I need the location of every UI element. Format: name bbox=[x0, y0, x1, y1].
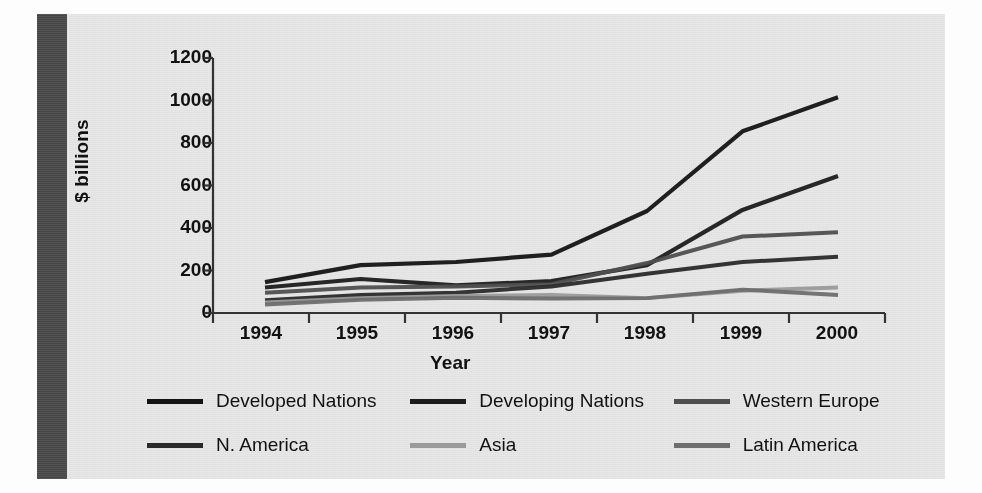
x-tick-label: 1996 bbox=[408, 322, 498, 344]
x-axis-title: Year bbox=[430, 352, 471, 374]
x-tick-label: 1995 bbox=[312, 322, 402, 344]
legend-label: N. America bbox=[216, 434, 309, 456]
legend-swatch-icon bbox=[674, 399, 730, 404]
chart-legend: Developed NationsDeveloping NationsWeste… bbox=[147, 390, 937, 456]
x-tick-label: 1997 bbox=[504, 322, 594, 344]
legend-item[interactable]: Asia bbox=[410, 434, 673, 456]
legend-item[interactable]: Latin America bbox=[674, 434, 937, 456]
legend-label: Latin America bbox=[743, 434, 858, 456]
legend-item[interactable]: Developed Nations bbox=[147, 390, 410, 412]
legend-swatch-icon bbox=[147, 399, 203, 404]
series-line bbox=[265, 97, 838, 282]
legend-label: Developing Nations bbox=[479, 390, 644, 412]
legend-item[interactable]: Western Europe bbox=[674, 390, 937, 412]
x-tick-label: 1999 bbox=[696, 322, 786, 344]
legend-item[interactable]: Developing Nations bbox=[410, 390, 673, 412]
legend-swatch-icon bbox=[674, 443, 730, 448]
legend-label: Asia bbox=[479, 434, 516, 456]
x-tick-label: 1994 bbox=[216, 322, 306, 344]
figure-page: $ billions 020040060080010001200 1994199… bbox=[0, 0, 982, 493]
x-tick-label: 2000 bbox=[792, 322, 882, 344]
legend-item[interactable]: N. America bbox=[147, 434, 410, 456]
legend-swatch-icon bbox=[410, 399, 466, 404]
line-chart: $ billions 020040060080010001200 1994199… bbox=[0, 0, 982, 493]
legend-swatch-icon bbox=[410, 443, 466, 448]
series-line bbox=[265, 176, 838, 288]
x-tick-label: 1998 bbox=[600, 322, 690, 344]
legend-label: Western Europe bbox=[743, 390, 880, 412]
legend-label: Developed Nations bbox=[216, 390, 377, 412]
legend-swatch-icon bbox=[147, 443, 203, 448]
